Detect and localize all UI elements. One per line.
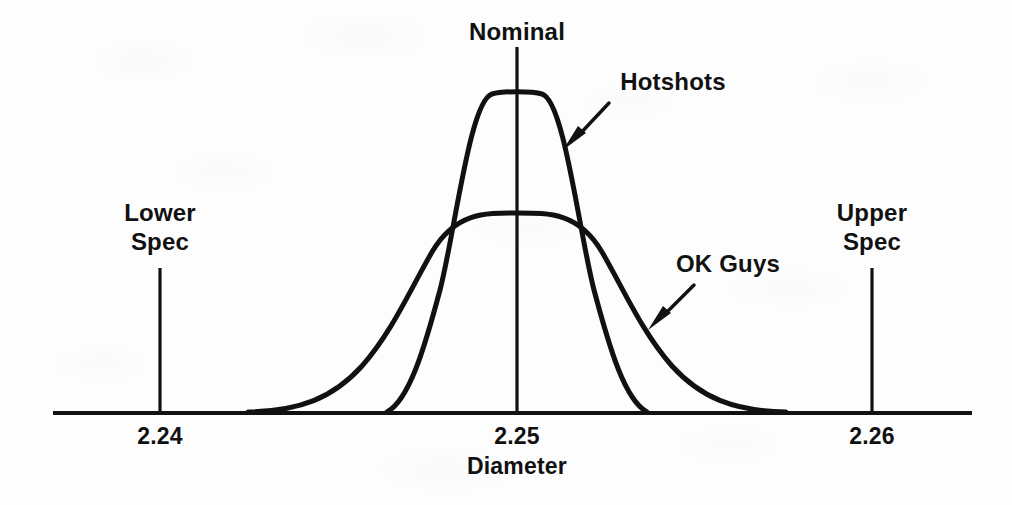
x-axis-title: Diameter [467,453,567,479]
ok-guys-callout-arrow [648,285,694,330]
nominal-label: Nominal [469,18,565,45]
lower-spec-label-line2: Spec [131,228,189,255]
x-tick-label-upper: 2.26 [849,423,895,449]
upper-spec-label-line2: Spec [843,228,901,255]
hotshots-callout-arrow [563,103,609,150]
lower-spec-label-line1: Lower [124,199,196,226]
figure-canvas: Nominal Lower Spec Upper Spec Hotshots O… [0,0,1012,505]
ok-guys-series-label: OK Guys [676,250,780,277]
hotshots-series-label: Hotshots [620,68,726,95]
upper-spec-label-line1: Upper [837,199,907,226]
distribution-chart: Nominal Lower Spec Upper Spec Hotshots O… [0,0,1012,505]
x-tick-label-lower: 2.24 [137,423,183,449]
x-tick-label-nominal: 2.25 [494,423,540,449]
